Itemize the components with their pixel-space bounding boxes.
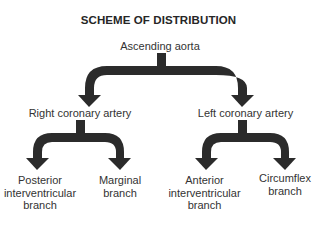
node-circumflex-branch: Circumflex branch (255, 172, 315, 197)
node-anterior-interventricular-branch: Anterior interventricular branch (162, 174, 247, 212)
arrow-left-coronary-split-icon (195, 120, 296, 170)
node-posterior-interventricular-branch: Posterior interventricular branch (0, 174, 80, 212)
arrow-aorta-split-icon (78, 53, 254, 107)
arrow-right-coronary-split-icon (26, 120, 131, 170)
node-right-coronary-artery: Right coronary artery (20, 107, 140, 120)
node-marginal-branch: Marginal branch (95, 174, 145, 199)
node-left-coronary-artery: Left coronary artery (183, 107, 308, 120)
